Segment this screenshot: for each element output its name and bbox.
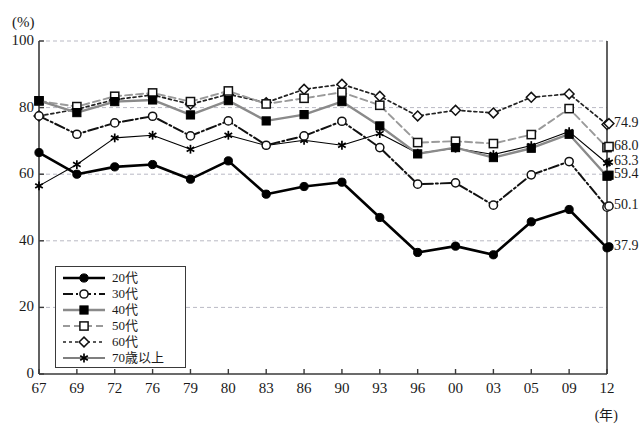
chart-figure: (%) 020406080100 67697276798083869093960… xyxy=(0,0,624,430)
end-marker-glyphs xyxy=(0,0,624,430)
